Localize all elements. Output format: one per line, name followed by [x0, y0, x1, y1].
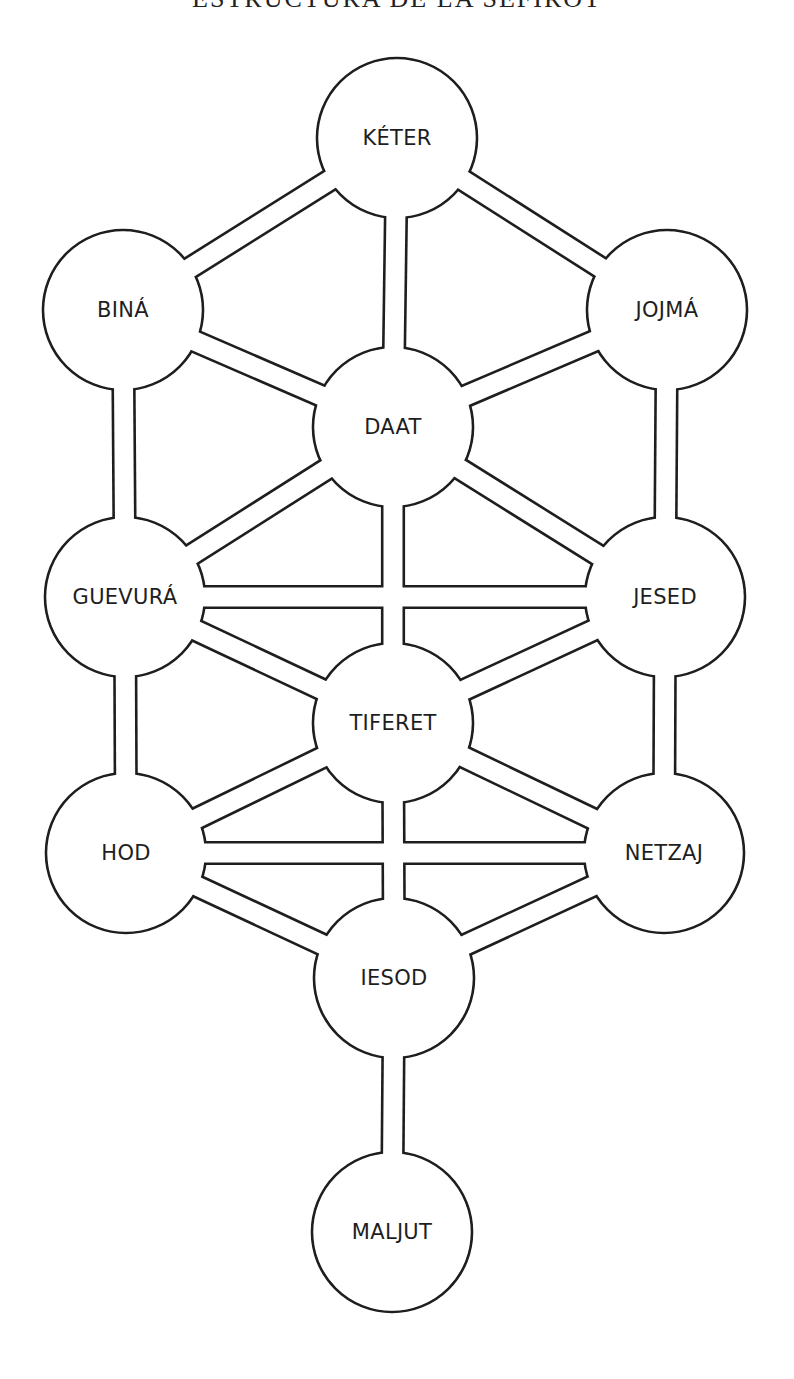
node-label-iesod: IESOD — [361, 966, 428, 990]
node-label-guevura: GUEVURÁ — [73, 584, 178, 609]
node-label-netzaj: NETZAJ — [625, 841, 704, 865]
node-label-maljut: MALJUT — [352, 1220, 432, 1244]
channel-interiors — [45, 60, 745, 1310]
node-label-keter: KÉTER — [362, 125, 431, 150]
node-label-hod: HOD — [101, 841, 150, 865]
node-label-daat: DAAT — [364, 415, 422, 439]
node-label-jesed: JESED — [631, 585, 697, 609]
node-label-tiferet: TIFERET — [348, 711, 436, 735]
sefirot-tree-diagram: KÉTERBINÁJOJMÁDAATGUEVURÁJESEDTIFERETHOD… — [0, 0, 794, 1379]
node-label-jojma: JOJMÁ — [634, 297, 699, 322]
node-label-bina: BINÁ — [97, 297, 149, 322]
